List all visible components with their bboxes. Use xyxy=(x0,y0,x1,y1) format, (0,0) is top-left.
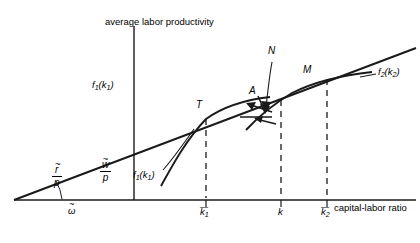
fraction-rate-of-profit: ~ r p xyxy=(52,165,62,188)
fraction-numerator-w: ~ w xyxy=(100,160,111,170)
curve-label-f2-right: f2(k2) xyxy=(378,67,400,79)
f1-lower-paren-close: ) xyxy=(152,169,155,180)
bar-accent-k2: ― xyxy=(321,203,326,211)
bar-accent-k1: ― xyxy=(200,203,205,211)
tilde-accent-r: ~ xyxy=(55,159,58,169)
fraction-numerator-r: ~ r xyxy=(52,165,62,175)
n-leader-line xyxy=(266,62,272,106)
k1-with-bar: ― k xyxy=(200,207,205,217)
w-with-tilde: ~ w xyxy=(102,160,109,170)
tilde-accent-w: ~ xyxy=(102,154,109,164)
f1-upper-paren-close: ) xyxy=(111,79,114,90)
r-with-tilde: ~ r xyxy=(55,165,58,175)
point-label-T: T xyxy=(196,100,202,111)
fraction-denominator-p: p xyxy=(52,178,62,188)
f2-right-paren-close: ) xyxy=(397,66,400,77)
fraction-denominator-p2: p xyxy=(100,173,111,183)
k2-subscript: 2 xyxy=(326,211,330,219)
point-label-N: N xyxy=(268,46,275,57)
point-label-A: A xyxy=(249,86,256,97)
x-axis-title: capital-labor ratio xyxy=(334,203,407,213)
tilde-accent-omega: ~ xyxy=(68,200,75,209)
omega-with-tilde: ~ ω xyxy=(68,206,75,216)
figure-canvas: average labor productivity capital-labor… xyxy=(0,0,420,243)
y-axis-title: average labor productivity xyxy=(105,17,214,27)
point-label-M: M xyxy=(303,65,311,76)
fraction-real-wage: ~ w p xyxy=(100,160,111,183)
k1-subscript: 1 xyxy=(205,211,209,219)
curve-label-f1-lower: f1(k1) xyxy=(133,170,155,182)
tick-label-k2: ― k 2 xyxy=(321,207,330,219)
k2-with-bar: ― k xyxy=(321,207,326,217)
tick-label-omega: ~ ω xyxy=(68,206,75,216)
curve-label-f1-upper: f1(k1) xyxy=(92,80,114,92)
f1-lower-leader xyxy=(163,129,194,170)
tick-label-k: k xyxy=(278,207,283,217)
wage-profit-line xyxy=(14,48,416,200)
tick-label-k1: ― k 1 xyxy=(200,207,209,219)
f2-right-leader xyxy=(360,74,376,77)
